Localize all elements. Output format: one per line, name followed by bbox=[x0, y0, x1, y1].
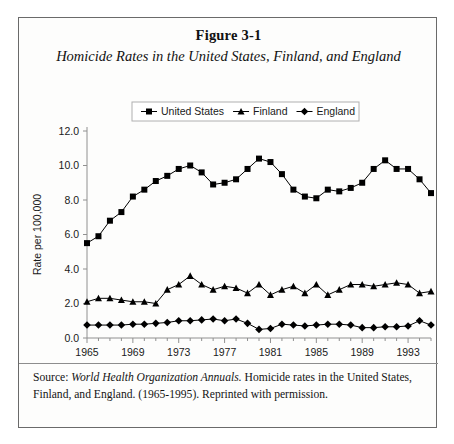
legend-label: England bbox=[317, 105, 356, 117]
data-point bbox=[290, 321, 298, 329]
data-point bbox=[324, 320, 332, 328]
data-point bbox=[405, 166, 411, 172]
data-point bbox=[313, 281, 320, 288]
y-tick-label: 10.0 bbox=[59, 159, 80, 171]
series-england bbox=[83, 315, 435, 333]
data-point bbox=[290, 283, 297, 290]
data-point bbox=[245, 166, 251, 172]
data-point bbox=[221, 317, 229, 325]
series-line bbox=[87, 159, 431, 244]
data-point bbox=[256, 156, 262, 162]
data-point bbox=[187, 272, 194, 279]
data-point bbox=[428, 288, 435, 295]
x-tick-label: 1989 bbox=[351, 346, 375, 358]
data-point bbox=[417, 176, 423, 182]
data-point bbox=[256, 281, 263, 288]
data-point bbox=[302, 194, 308, 200]
data-point bbox=[141, 320, 149, 328]
source-divider bbox=[19, 363, 438, 364]
data-point bbox=[278, 320, 286, 328]
data-point bbox=[416, 317, 424, 325]
data-point bbox=[394, 166, 400, 172]
data-point bbox=[175, 317, 183, 325]
data-point bbox=[232, 315, 240, 323]
data-point bbox=[198, 316, 206, 324]
data-point bbox=[164, 173, 170, 179]
legend-marker-square bbox=[146, 109, 152, 115]
data-point bbox=[244, 320, 252, 328]
data-point bbox=[325, 187, 331, 193]
data-point bbox=[141, 187, 147, 193]
data-point bbox=[267, 159, 273, 165]
data-point bbox=[336, 286, 343, 293]
data-point bbox=[83, 321, 91, 329]
data-point bbox=[152, 320, 160, 328]
data-point bbox=[267, 325, 275, 333]
source-note: Source: World Health Organization Annual… bbox=[33, 370, 425, 404]
data-point bbox=[347, 321, 355, 329]
data-point bbox=[106, 321, 114, 329]
source-publication: World Health Organization Annuals. bbox=[71, 371, 241, 384]
figure-panel: Figure 3-1 Homicide Rates in the United … bbox=[18, 17, 437, 428]
data-point bbox=[95, 233, 101, 239]
data-point bbox=[290, 187, 296, 193]
series-finland bbox=[84, 272, 435, 306]
series-united-states bbox=[84, 156, 434, 247]
x-tick-label: 1977 bbox=[213, 346, 237, 358]
data-point bbox=[313, 195, 319, 201]
legend-label: Finland bbox=[253, 105, 288, 117]
data-point bbox=[336, 188, 342, 194]
y-axis-title: Rate per 100,000 bbox=[31, 194, 43, 275]
data-point bbox=[393, 279, 400, 286]
data-point bbox=[175, 281, 182, 288]
y-tick-label: 0.0 bbox=[64, 332, 79, 344]
data-point bbox=[404, 322, 412, 330]
data-point bbox=[358, 324, 366, 332]
data-point bbox=[164, 286, 171, 293]
data-point bbox=[371, 166, 377, 172]
data-point bbox=[84, 240, 90, 246]
x-tick-label: 1973 bbox=[167, 346, 191, 358]
data-point bbox=[370, 324, 378, 332]
y-tick-label: 8.0 bbox=[64, 194, 79, 206]
data-point bbox=[95, 321, 103, 329]
data-point bbox=[233, 176, 239, 182]
data-point bbox=[118, 209, 124, 215]
x-tick-label: 1981 bbox=[259, 346, 283, 358]
data-point bbox=[427, 321, 435, 329]
data-point bbox=[107, 218, 113, 224]
x-tick-label: 1985 bbox=[305, 346, 329, 358]
y-tick-label: 4.0 bbox=[64, 263, 79, 275]
y-tick-label: 12.0 bbox=[59, 125, 80, 137]
chart-plot-area: United StatesFinlandEngland 0.02.04.06.0… bbox=[19, 76, 438, 366]
data-point bbox=[301, 290, 308, 297]
data-point bbox=[210, 181, 216, 187]
data-point bbox=[163, 319, 171, 327]
y-tick-label: 2.0 bbox=[64, 297, 79, 309]
data-point bbox=[348, 185, 354, 191]
data-point bbox=[222, 180, 228, 186]
figure-number: Figure 3-1 bbox=[19, 27, 438, 44]
x-tick-label: 1969 bbox=[121, 346, 145, 358]
data-point bbox=[209, 315, 217, 323]
data-point bbox=[198, 281, 205, 288]
data-point bbox=[129, 320, 137, 328]
data-point bbox=[279, 171, 285, 177]
data-point bbox=[176, 166, 182, 172]
y-tick-label: 6.0 bbox=[64, 228, 79, 240]
data-point bbox=[301, 322, 309, 330]
x-tick-label: 1965 bbox=[75, 346, 99, 358]
x-tick-label: 1993 bbox=[396, 346, 420, 358]
data-point bbox=[393, 323, 401, 331]
data-point bbox=[199, 169, 205, 175]
data-point bbox=[382, 157, 388, 163]
data-point bbox=[381, 323, 389, 331]
data-point bbox=[221, 283, 228, 290]
data-point bbox=[118, 321, 126, 329]
data-point bbox=[130, 194, 136, 200]
chart-series bbox=[83, 156, 435, 334]
data-point bbox=[255, 326, 263, 334]
data-point bbox=[335, 320, 343, 328]
data-point bbox=[186, 317, 194, 325]
data-point bbox=[313, 321, 321, 329]
